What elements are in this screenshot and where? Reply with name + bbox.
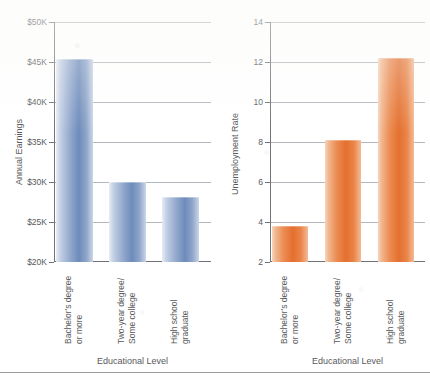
y-axis-title-unemployment: Unemployment Rate: [230, 113, 240, 195]
bar-unemployment-two-year: [325, 140, 361, 262]
x-axis-title-unemployment: Educational Level: [270, 356, 425, 366]
tick-40k: [49, 102, 54, 103]
two-bar-charts-figure: Annual Earnings $50K $45K $40K $35K $30K: [0, 0, 430, 381]
bar-unemployment-bachelors: [272, 226, 308, 262]
x-label-bachelors-line2: or more: [74, 276, 85, 344]
bar-unemployment-high-school: [378, 58, 414, 262]
x-label-high-school-unemployment: High school graduate: [385, 300, 406, 344]
y-label-6: 6: [258, 178, 263, 187]
tick-10: [265, 102, 270, 103]
y-axis-title-earnings: Annual Earnings: [14, 119, 24, 185]
x-label-two-year: Two-year degree/ Some college: [116, 278, 137, 344]
tick-20k: [49, 262, 54, 263]
x-label-bachelors-unemployment-line1: Bachelor's degree: [279, 276, 289, 344]
tick-35k: [49, 142, 54, 143]
tick-6: [265, 182, 270, 183]
x-label-bachelors-unemployment: Bachelor's degree or more: [279, 276, 300, 344]
gridline-14: [270, 22, 425, 23]
x-label-two-year-unemployment-line1: Two-year degree/: [332, 278, 342, 344]
x-label-high-school-line2: graduate: [180, 300, 191, 344]
x-label-two-year-line2: Some college: [127, 278, 138, 344]
tick-12: [265, 62, 270, 63]
y-label-4: 4: [258, 218, 263, 227]
y-label-50k: $50K: [27, 18, 47, 27]
y-label-10: 10: [254, 98, 263, 107]
tick-14: [265, 22, 270, 23]
x-label-two-year-unemployment-line2: Some college: [343, 278, 354, 344]
plot-area-earnings: $50K $45K $40K $35K $30K $25K $20K: [54, 22, 211, 262]
y-label-45k: $45K: [27, 58, 47, 67]
x-label-high-school-unemployment-line1: High school: [385, 300, 395, 344]
y-label-30k: $30K: [27, 178, 47, 187]
figure-bottom-rule: [0, 372, 430, 373]
y-axis-line-unemployment: [270, 22, 271, 262]
x-label-bachelors-line1: Bachelor's degree: [63, 276, 73, 344]
bar-earnings-two-year: [109, 182, 146, 262]
tick-25k: [49, 222, 54, 223]
x-label-two-year-line1: Two-year degree/: [116, 278, 126, 344]
chart-panel-unemployment: Unemployment Rate 14 12 10 8 6 4 2: [215, 0, 430, 381]
tick-30k: [49, 182, 54, 183]
x-label-high-school-line1: High school: [169, 300, 179, 344]
bar-earnings-high-school: [162, 197, 199, 262]
tick-4: [265, 222, 270, 223]
y-label-25k: $25K: [27, 218, 47, 227]
tick-45k: [49, 62, 54, 63]
y-label-35k: $35K: [27, 138, 47, 147]
plot-area-unemployment: 14 12 10 8 6 4 2: [270, 22, 425, 262]
y-label-8: 8: [258, 138, 263, 147]
y-label-14: 14: [254, 18, 263, 27]
gridline-50k: [54, 22, 211, 23]
tick-2: [265, 262, 270, 263]
y-label-12: 12: [254, 58, 263, 67]
tick-50k: [49, 22, 54, 23]
x-label-bachelors: Bachelor's degree or more: [63, 276, 84, 344]
tick-8: [265, 142, 270, 143]
x-label-high-school: High school graduate: [169, 300, 190, 344]
x-label-high-school-unemployment-line2: graduate: [396, 300, 407, 344]
y-axis-line-earnings: [54, 22, 55, 262]
y-label-20k: $20K: [27, 258, 47, 267]
chart-panel-earnings: Annual Earnings $50K $45K $40K $35K $30K: [0, 0, 215, 381]
x-axis-title-earnings: Educational Level: [54, 356, 211, 366]
bar-earnings-bachelors: [56, 59, 93, 262]
x-label-two-year-unemployment: Two-year degree/ Some college: [332, 278, 353, 344]
y-label-2: 2: [258, 258, 263, 267]
x-label-bachelors-unemployment-line2: or more: [290, 276, 301, 344]
y-label-40k: $40K: [27, 98, 47, 107]
